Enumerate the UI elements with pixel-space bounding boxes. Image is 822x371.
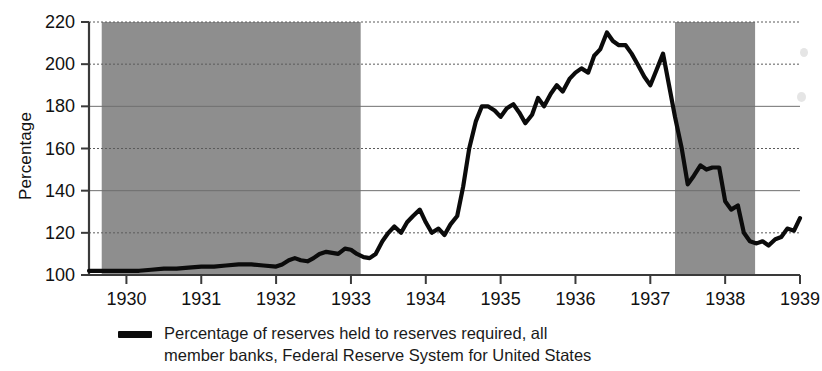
legend-label: Percentage of reserves held to reserves … — [164, 322, 591, 367]
x-tick-label-1931: 1931 — [181, 289, 221, 309]
y-tick-labels-group: 100120140160180200220 — [45, 12, 75, 285]
x-tick-label-1939: 1939 — [780, 289, 820, 309]
y-tick-label-100: 100 — [45, 265, 75, 285]
x-tick-label-1932: 1932 — [256, 289, 296, 309]
x-tick-label-1930: 1930 — [106, 289, 146, 309]
chart-legend: Percentage of reserves held to reserves … — [118, 322, 718, 367]
y-tick-label-140: 140 — [45, 181, 75, 201]
chart-figure: Percentage 100120140160180200220 1930193… — [0, 0, 822, 371]
legend-label-line-1: Percentage of reserves held to reserves … — [164, 322, 591, 344]
y-tick-label-120: 120 — [45, 223, 75, 243]
x-tick-label-1936: 1936 — [555, 289, 595, 309]
legend-label-line-2: member banks, Federal Reserve System for… — [164, 344, 591, 366]
x-tick-label-1937: 1937 — [630, 289, 670, 309]
y-tick-label-200: 200 — [45, 54, 75, 74]
recession-band-2 — [675, 22, 755, 275]
y-tick-label-220: 220 — [45, 12, 75, 32]
chart-plot-area: 100120140160180200220 193019311932193319… — [0, 0, 822, 371]
scan-artifact-2 — [797, 92, 806, 102]
x-tick-labels-group: 1930193119321933193419351936193719381939 — [106, 289, 820, 309]
y-tick-label-160: 160 — [45, 139, 75, 159]
y-tick-label-180: 180 — [45, 96, 75, 116]
x-tick-label-1934: 1934 — [406, 289, 446, 309]
legend-line-swatch — [118, 331, 152, 338]
x-tick-label-1938: 1938 — [705, 289, 745, 309]
x-tick-label-1935: 1935 — [481, 289, 521, 309]
scan-artifact-1 — [800, 48, 808, 57]
x-tick-label-1933: 1933 — [331, 289, 371, 309]
